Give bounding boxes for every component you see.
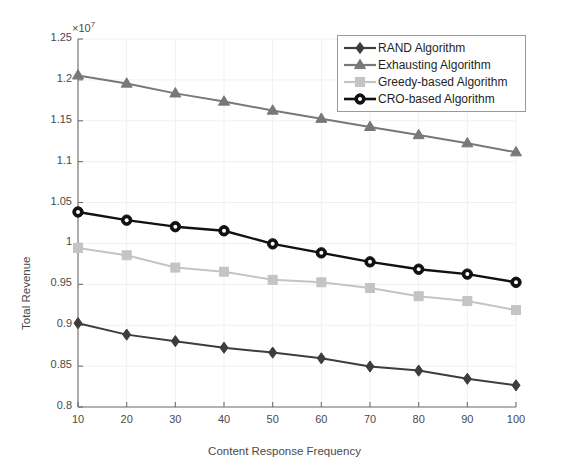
chart-legend: RAND Algorithm Exhausting Algorithm Gree… <box>337 35 526 112</box>
y-axis-label-wrap: Total Revenue <box>2 140 22 330</box>
legend-label: CRO-based Algorithm <box>378 91 495 107</box>
y-axis-exponent: ×107 <box>72 20 95 34</box>
circle-marker-icon <box>342 91 378 107</box>
x-tick-label: 10 <box>58 413 98 425</box>
y-tick-label: 1.1 <box>24 154 72 166</box>
triangle-marker-icon <box>342 57 378 73</box>
y-tick-label: 1 <box>24 235 72 247</box>
legend-item-exhausting: Exhausting Algorithm <box>342 56 521 73</box>
y-tick-label: 0.85 <box>24 358 72 370</box>
x-tick-label: 60 <box>301 413 341 425</box>
data-series <box>72 70 521 391</box>
x-tick-label: 20 <box>107 413 147 425</box>
legend-label: Exhausting Algorithm <box>378 57 491 73</box>
x-tick-label: 30 <box>155 413 195 425</box>
legend-label: RAND Algorithm <box>378 40 465 56</box>
series-square <box>74 243 521 314</box>
x-tick-label: 90 <box>447 413 487 425</box>
x-tick-label: 40 <box>204 413 244 425</box>
legend-item-cro: CRO-based Algorithm <box>342 90 521 107</box>
y-axis-label: Total Revenue <box>20 256 32 330</box>
y-tick-label: 1.2 <box>24 72 72 84</box>
y-tick-label: 0.8 <box>24 399 72 411</box>
diamond-marker-icon <box>342 40 378 56</box>
legend-label: Greedy-based Algorithm <box>378 74 507 90</box>
series-circle <box>73 207 521 288</box>
square-marker-icon <box>342 74 378 90</box>
legend-item-greedy: Greedy-based Algorithm <box>342 73 521 90</box>
y-tick-label: 1.15 <box>24 113 72 125</box>
x-tick-label: 70 <box>350 413 390 425</box>
series-diamond <box>74 318 520 391</box>
y-tick-label: 1.25 <box>24 31 72 43</box>
legend-item-rand: RAND Algorithm <box>342 39 521 56</box>
x-tick-label: 80 <box>399 413 439 425</box>
chart-figure: ×107 0.80.850.90.9511.051.11.151.21.25 1… <box>0 0 569 474</box>
x-tick-label: 50 <box>253 413 293 425</box>
y-tick-label: 1.05 <box>24 195 72 207</box>
x-axis-label: Content Response Frequency <box>0 445 569 457</box>
x-tick-label: 100 <box>496 413 536 425</box>
